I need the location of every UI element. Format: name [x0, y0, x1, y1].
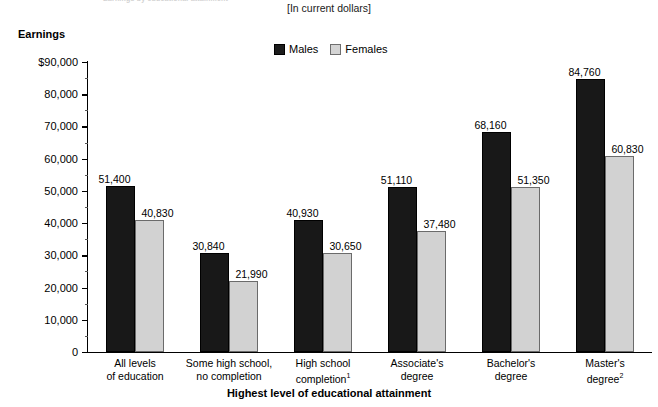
x-axis-title: Highest level of educational attainment [0, 387, 658, 399]
legend-label-females: Females [345, 44, 387, 55]
legend-label-males: Males [289, 44, 318, 55]
bar-females[interactable]: 60,830 [605, 156, 634, 352]
x-axis-category-label-line: Master's [558, 357, 652, 370]
bar-females[interactable]: 40,830 [135, 220, 164, 352]
y-axis-tick-label: 80,000 [44, 88, 78, 100]
x-axis-category-label: Bachelor'sdegree [464, 357, 558, 382]
bar-females[interactable]: 21,990 [229, 281, 258, 352]
x-axis-category-label: Master'sdegree2 [558, 357, 652, 385]
bar-group: 51,40040,830 [88, 62, 182, 352]
bar-value-label: 51,400 [98, 173, 130, 185]
bar-males[interactable]: 51,110 [388, 187, 417, 352]
y-axis-tick-mark [82, 352, 88, 353]
x-axis-category-label-line: degree [370, 370, 464, 383]
x-axis-category-label-line: All levels [88, 357, 182, 370]
bar-value-label: 60,830 [611, 143, 643, 155]
bar-value-label: 51,110 [381, 174, 412, 186]
bar-males[interactable]: 68,160 [482, 132, 511, 352]
bar-value-label: 37,480 [423, 218, 455, 230]
y-axis-tick-label: 10,000 [44, 314, 78, 326]
x-axis-category-label-line: Some high school, [182, 357, 276, 370]
x-axis-line [87, 352, 652, 353]
y-axis-tick-label: 50,000 [44, 185, 78, 197]
y-axis-tick-label: 0 [72, 346, 78, 358]
y-axis-tick-label: 40,000 [44, 217, 78, 229]
legend-item-males: Males [274, 44, 318, 55]
y-axis-title: Earnings [18, 28, 65, 40]
bar-group: 68,16051,350 [464, 62, 558, 352]
x-axis-category-label-line: degree2 [558, 370, 652, 385]
footnote-marker: 2 [619, 372, 623, 379]
bar-females[interactable]: 51,350 [511, 187, 540, 352]
footnote-marker: 1 [346, 372, 350, 379]
bar-females[interactable]: 30,650 [323, 253, 352, 352]
x-axis-category-label-line: Associate's [370, 357, 464, 370]
y-axis-tick-label: 20,000 [44, 282, 78, 294]
x-axis-category-label-line: of education [88, 370, 182, 383]
bar-value-label: 68,160 [474, 119, 506, 131]
chart-figure: Earnings by educational attainment [In c… [0, 0, 658, 407]
y-axis-tick-label: 30,000 [44, 249, 78, 261]
y-axis-tick-label: 70,000 [44, 120, 78, 132]
units-note: [In current dollars] [0, 2, 658, 14]
bar-value-label: 51,350 [517, 174, 549, 186]
legend-swatch-males-icon [274, 44, 285, 55]
bar-group: 40,93030,650 [276, 62, 370, 352]
bar-males[interactable]: 84,760 [576, 79, 605, 352]
plot-area: 010,00020,00030,00040,00050,00060,00070,… [88, 62, 652, 352]
x-axis-category-label-line: no completion [182, 370, 276, 383]
chart-legend: Males Females [274, 44, 388, 55]
x-axis-category-label: Associate'sdegree [370, 357, 464, 382]
y-axis-tick-label: $90,000 [38, 56, 78, 68]
bar-males[interactable]: 30,840 [200, 253, 229, 352]
legend-swatch-females-icon [330, 44, 341, 55]
bar-group: 51,11037,480 [370, 62, 464, 352]
bar-value-label: 30,650 [329, 240, 361, 252]
x-axis-category-label-line: Bachelor's [464, 357, 558, 370]
x-axis-category-label: All levelsof education [88, 357, 182, 382]
bar-value-label: 30,840 [192, 240, 224, 252]
x-axis-category-label-line: High school [276, 357, 370, 370]
x-axis-category-label: High schoolcompletion1 [276, 357, 370, 385]
bar-group: 84,76060,830 [558, 62, 652, 352]
bar-males[interactable]: 40,930 [294, 220, 323, 352]
x-axis-category-label-line: degree [464, 370, 558, 383]
x-axis-category-label: Some high school,no completion [182, 357, 276, 382]
bar-group: 30,84021,990 [182, 62, 276, 352]
legend-item-females: Females [330, 44, 387, 55]
x-axis-category-label-line: completion1 [276, 370, 370, 385]
bar-females[interactable]: 37,480 [417, 231, 446, 352]
y-axis-tick-label: 60,000 [44, 153, 78, 165]
bar-males[interactable]: 51,400 [106, 186, 135, 352]
bar-value-label: 84,760 [568, 66, 600, 78]
bar-value-label: 40,930 [286, 207, 318, 219]
bar-value-label: 21,990 [235, 268, 267, 280]
bar-value-label: 40,830 [141, 207, 173, 219]
